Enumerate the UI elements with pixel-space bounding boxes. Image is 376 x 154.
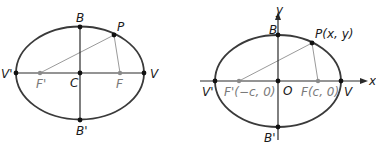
label-y-axis: y xyxy=(275,3,284,17)
label-x-axis: x xyxy=(368,74,376,88)
point-f-prime xyxy=(38,71,42,75)
label-p: P xyxy=(117,20,125,34)
right-ellipse-diagram: y B P(x, y) x V' F'(−c, 0) O F(c, 0) V B… xyxy=(200,3,376,145)
focal-line-f-prime-to-p xyxy=(40,35,114,73)
point-v-prime xyxy=(213,79,218,84)
label-v-prime: V' xyxy=(202,85,214,99)
label-v: V xyxy=(344,85,353,99)
x-axis-arrow-icon xyxy=(360,78,368,84)
left-ellipse-diagram: B P V' V C F' F B' xyxy=(1,11,159,138)
point-f xyxy=(316,79,320,83)
label-v: V xyxy=(150,67,159,81)
label-b: B xyxy=(269,23,277,37)
point-v-prime xyxy=(14,71,19,76)
point-v xyxy=(142,71,147,76)
label-f-prime: F'(−c, 0) xyxy=(224,85,275,99)
label-b: B xyxy=(76,11,84,25)
label-v-prime: V' xyxy=(1,67,13,81)
point-f xyxy=(118,71,122,75)
label-b-prime: B' xyxy=(76,124,88,138)
ellipse-diagrams: B P V' V C F' F B' y B P(x, y) x V' xyxy=(0,0,376,154)
focal-line-f-prime-to-p xyxy=(239,43,312,81)
point-b-prime xyxy=(276,125,281,130)
label-o: O xyxy=(283,84,292,98)
point-b xyxy=(78,25,83,30)
point-v xyxy=(339,79,344,84)
label-c: C xyxy=(70,76,79,90)
label-f: F xyxy=(116,77,124,91)
label-p: P(x, y) xyxy=(315,27,353,41)
focal-line-f-to-p xyxy=(114,35,120,73)
label-f: F(c, 0) xyxy=(301,85,339,99)
point-f-prime xyxy=(237,79,241,83)
point-p xyxy=(310,41,315,46)
focal-line-f-to-p xyxy=(312,43,318,81)
point-b-prime xyxy=(78,118,83,123)
label-f-prime: F' xyxy=(36,77,46,91)
point-c xyxy=(78,71,83,76)
point-o xyxy=(276,79,281,84)
point-p xyxy=(112,33,117,38)
label-b-prime: B' xyxy=(264,131,276,145)
